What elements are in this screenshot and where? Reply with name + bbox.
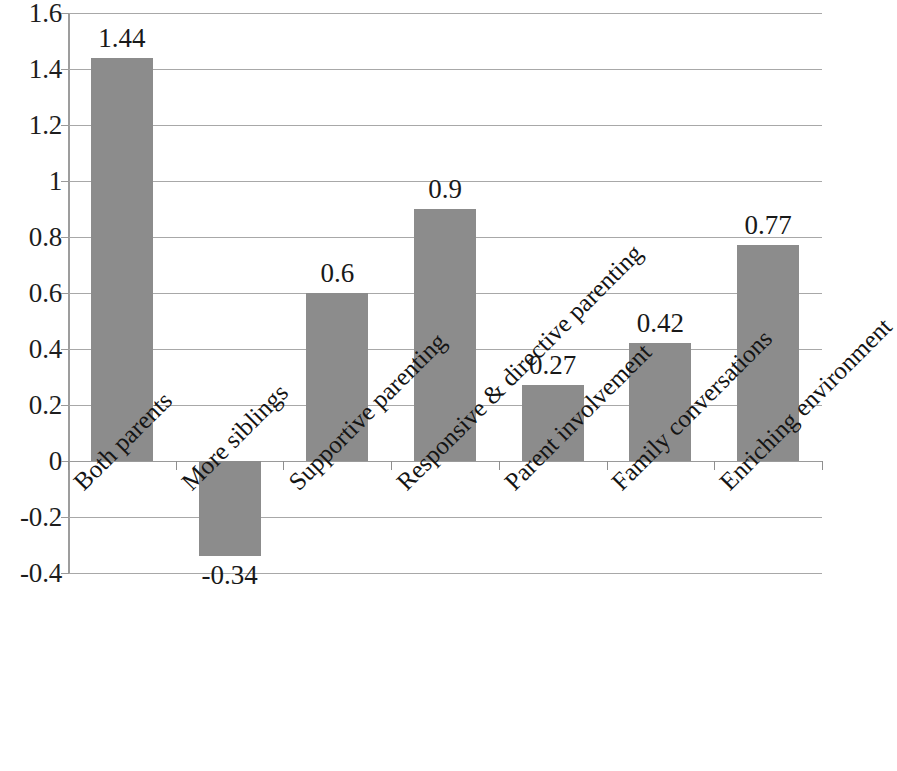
x-axis-tick-mark <box>822 461 823 470</box>
y-axis-tick-mark <box>61 573 69 574</box>
y-axis-tick-mark <box>61 293 69 294</box>
y-axis-tick-label: 1 <box>4 168 62 195</box>
y-axis-tick-mark <box>61 181 69 182</box>
data-value-label: -0.34 <box>201 562 257 589</box>
y-axis-tick-label: 0.4 <box>4 336 62 363</box>
y-axis-tick-label: -0.2 <box>4 504 62 531</box>
y-axis-tick-labels: 1.61.41.210.80.60.40.20-0.2-0.4 <box>0 0 62 771</box>
data-value-label: 0.6 <box>320 260 354 287</box>
y-axis-tick-label: 1.4 <box>4 56 62 83</box>
y-axis-tick-label: 0 <box>4 448 62 475</box>
y-axis-tick-label: 1.2 <box>4 112 62 139</box>
y-axis-tick-mark <box>61 237 69 238</box>
y-axis-tick-label: -0.4 <box>4 560 62 587</box>
gridline <box>68 517 822 518</box>
x-axis-tick-mark <box>176 461 177 470</box>
y-axis-tick-label: 0.6 <box>4 280 62 307</box>
gridline <box>68 69 822 70</box>
data-value-label: 1.44 <box>98 25 145 52</box>
y-axis-tick-mark <box>61 125 69 126</box>
gridline <box>68 573 822 574</box>
gridline <box>68 13 822 14</box>
x-axis-tick-mark <box>283 461 284 470</box>
y-axis-tick-mark <box>61 349 69 350</box>
zero-gridline <box>68 461 822 462</box>
data-value-label: 0.9 <box>428 176 462 203</box>
y-axis-tick-label: 0.8 <box>4 224 62 251</box>
gridline <box>68 125 822 126</box>
x-axis-tick-mark <box>499 461 500 470</box>
y-axis-tick-label: 1.6 <box>4 0 62 27</box>
data-value-label: 0.42 <box>637 310 684 337</box>
y-axis-tick-label: 0.2 <box>4 392 62 419</box>
plot-area <box>68 13 822 573</box>
y-axis-tick-mark <box>61 405 69 406</box>
x-axis-tick-mark <box>607 461 608 470</box>
y-axis-tick-mark <box>61 69 69 70</box>
y-axis-tick-mark <box>61 13 69 14</box>
y-axis-tick-mark <box>61 517 69 518</box>
x-axis-tick-mark <box>714 461 715 470</box>
x-axis-tick-mark <box>391 461 392 470</box>
x-axis-tick-mark <box>68 461 69 470</box>
data-value-label: 0.77 <box>745 212 792 239</box>
